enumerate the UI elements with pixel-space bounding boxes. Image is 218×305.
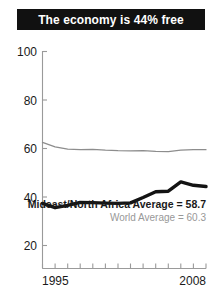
x-axis-ticks — [43, 264, 207, 269]
y-tick-label-80: 80 — [24, 94, 38, 108]
y-axis-ticks — [43, 52, 48, 246]
annotation-world-average: World Average = 60.3 — [110, 212, 207, 223]
x-axis-end-label: 2008 — [179, 274, 206, 288]
annotation-mideast-average: Mideast/North Africa Average = 58.7 — [28, 198, 206, 210]
y-axis-tick-labels: 100 80 60 40 20 — [17, 45, 37, 253]
y-tick-label-20: 20 — [24, 239, 38, 253]
chart-plot-area: 100 80 60 40 20 1995 2008 — [0, 0, 218, 305]
chart-figure: The economy is 44% free 100 80 60 40 20 — [0, 0, 218, 305]
y-tick-label-60: 60 — [24, 142, 38, 156]
series-line-world — [43, 142, 207, 151]
x-axis-start-label: 1995 — [42, 274, 69, 288]
y-tick-label-100: 100 — [17, 45, 37, 59]
